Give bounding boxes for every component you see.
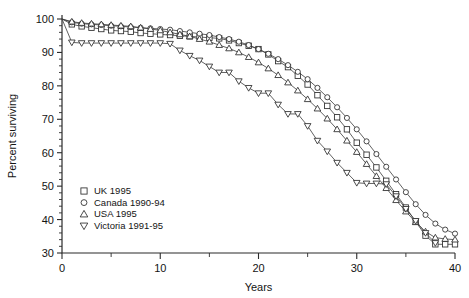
y-tick-label: 60 xyxy=(42,147,54,159)
data-point-marker xyxy=(335,105,340,110)
data-point-marker xyxy=(334,115,339,120)
data-point-marker xyxy=(285,112,292,118)
chart-canvas: 30405060708090100010203040 UK 1995Canada… xyxy=(0,0,469,298)
data-point-marker xyxy=(217,34,222,39)
legend-label: USA 1995 xyxy=(94,208,137,219)
data-point-marker xyxy=(374,165,379,170)
data-point-marker xyxy=(246,43,251,48)
data-point-marker xyxy=(304,124,311,130)
data-point-marker xyxy=(167,41,174,47)
data-point-marker xyxy=(206,64,213,70)
data-point-marker xyxy=(285,79,292,85)
y-tick-label: 50 xyxy=(42,180,54,192)
legend-entry-1: UK 1995 xyxy=(81,185,131,196)
data-point-marker xyxy=(295,87,302,93)
data-point-marker xyxy=(452,231,457,236)
data-point-marker xyxy=(364,139,369,144)
data-point-marker xyxy=(344,115,349,120)
data-point-marker xyxy=(98,41,105,47)
data-point-marker xyxy=(226,36,231,41)
legend-marker-triangle-down xyxy=(80,223,88,230)
y-tick-label: 30 xyxy=(42,247,54,259)
legend-entry-4: Victoria 1991-95 xyxy=(80,220,163,231)
legend-entry-2: Canada 1990-94 xyxy=(81,197,165,208)
data-point-marker xyxy=(432,234,439,240)
legend-label: UK 1995 xyxy=(94,185,131,196)
y-tick-label: 100 xyxy=(36,13,54,25)
data-point-marker xyxy=(266,51,271,56)
data-point-marker xyxy=(364,152,369,157)
data-point-marker xyxy=(255,59,262,65)
x-tick-label: 30 xyxy=(351,262,363,274)
y-tick-label: 80 xyxy=(42,80,54,92)
x-tick-label: 40 xyxy=(449,262,461,274)
data-point-marker xyxy=(108,41,115,47)
y-tick-label: 90 xyxy=(42,46,54,58)
data-point-marker xyxy=(88,41,95,47)
survival-chart: 30405060708090100010203040 UK 1995Canada… xyxy=(0,0,469,298)
data-point-marker xyxy=(443,227,448,232)
data-point-marker xyxy=(275,72,282,78)
data-point-marker xyxy=(118,41,125,47)
data-point-marker xyxy=(315,85,320,90)
data-point-marker xyxy=(354,140,359,145)
data-point-marker xyxy=(196,58,203,64)
axes-layer: 30405060708090100010203040 xyxy=(36,13,461,274)
legend-marker-triangle-up xyxy=(80,210,88,217)
data-point-marker xyxy=(186,53,193,59)
data-point-marker xyxy=(305,82,310,87)
data-point-marker xyxy=(177,48,184,54)
data-point-marker xyxy=(256,47,261,52)
data-point-marker xyxy=(147,41,154,47)
data-point-marker xyxy=(236,79,243,85)
y-axis-title: Percent surviving xyxy=(6,94,18,178)
legend-label: Victoria 1991-95 xyxy=(94,220,163,231)
data-point-marker xyxy=(393,177,398,182)
data-point-marker xyxy=(137,41,144,47)
data-point-marker xyxy=(413,202,418,207)
x-axis-title: Years xyxy=(245,281,273,293)
data-point-marker xyxy=(265,65,272,71)
data-point-marker xyxy=(216,70,223,76)
data-point-marker xyxy=(78,41,85,47)
data-point-marker xyxy=(344,127,349,132)
x-tick-label: 10 xyxy=(154,262,166,274)
x-tick-label: 0 xyxy=(59,262,65,274)
data-point-marker xyxy=(245,85,252,91)
data-point-marker xyxy=(325,103,330,108)
data-point-marker xyxy=(423,212,428,217)
data-point-marker xyxy=(374,151,379,156)
y-tick-label: 70 xyxy=(42,113,54,125)
data-point-marker xyxy=(403,190,408,195)
data-point-marker xyxy=(285,63,290,68)
legend-entry-3: USA 1995 xyxy=(80,208,137,219)
data-point-marker xyxy=(236,39,241,44)
legend-marker-square xyxy=(81,188,87,194)
data-point-marker xyxy=(138,30,143,35)
y-tick-label: 40 xyxy=(42,214,54,226)
legend-marker-circle xyxy=(81,200,87,206)
data-point-marker xyxy=(276,57,281,62)
data-point-marker xyxy=(255,91,262,97)
data-point-marker xyxy=(127,41,134,47)
data-point-marker xyxy=(236,49,243,55)
data-point-marker xyxy=(363,181,370,187)
data-point-marker xyxy=(305,77,310,82)
data-point-marker xyxy=(433,221,438,226)
data-point-marker xyxy=(442,242,447,247)
data-point-marker xyxy=(245,54,252,60)
data-point-marker xyxy=(325,95,330,100)
data-point-marker xyxy=(295,69,300,74)
data-point-marker xyxy=(384,164,389,169)
x-tick-label: 20 xyxy=(252,262,264,274)
data-point-marker xyxy=(354,127,359,132)
data-point-marker xyxy=(315,93,320,98)
legend-layer: UK 1995Canada 1990-94USA 1995Victoria 19… xyxy=(80,185,165,231)
legend-label: Canada 1990-94 xyxy=(94,197,165,208)
data-point-marker xyxy=(207,32,212,37)
